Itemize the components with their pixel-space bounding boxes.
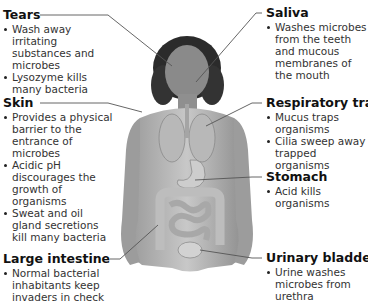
label-stomach: Stomach Acid kills organisms <box>266 170 368 209</box>
label-bullet: Sweat and oil gland secretions kill many… <box>3 207 113 243</box>
label-title: Saliva <box>266 6 368 20</box>
label-title: Urinary bladder <box>266 251 368 265</box>
label-saliva: Saliva Washes microbes from the teeth an… <box>266 6 368 81</box>
label-urinary-bladder: Urinary bladder Urine washes microbes fr… <box>266 251 368 302</box>
right-lung <box>189 114 215 162</box>
label-bullet: Acid kills organisms <box>266 185 368 209</box>
label-skin: Skin Provides a physical barrier to the … <box>3 96 113 243</box>
label-bullet: Washes microbes from the teeth and mucou… <box>266 21 368 81</box>
label-title: Skin <box>3 96 113 110</box>
trachea <box>185 104 189 138</box>
label-bullet: Provides a physical barrier to the entra… <box>3 111 113 159</box>
label-tears: Tears Wash away irritating substances an… <box>3 8 118 95</box>
head <box>165 45 209 99</box>
label-title: Stomach <box>266 170 368 184</box>
label-bullet: Normal bacterial inhabitants keep invade… <box>3 267 113 303</box>
left-lung <box>159 114 185 162</box>
label-title: Large intestine <box>3 252 113 266</box>
label-bullet: Urine washes microbes from urethra <box>266 266 368 302</box>
label-bullet: Acidic pH discourages the growth of orga… <box>3 159 113 207</box>
label-respiratory-tract: Respiratory tract Mucus traps organisms … <box>266 96 368 171</box>
label-bullet: Wash away irritating substances and micr… <box>3 23 118 71</box>
label-bullet: Lysozyme kills many bacteria <box>3 71 118 95</box>
label-bullet: Cilia sweep away trapped organisms <box>266 135 368 171</box>
urinary-bladder <box>178 242 202 258</box>
label-title: Tears <box>3 8 118 22</box>
label-bullet: Mucus traps organisms <box>266 111 368 135</box>
label-title: Respiratory tract <box>266 96 368 110</box>
label-large-intestine: Large intestine Normal bacterial inhabit… <box>3 252 113 303</box>
